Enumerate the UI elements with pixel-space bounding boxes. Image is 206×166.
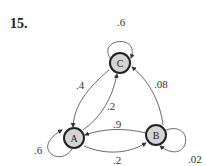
label-a-c: .2 (107, 100, 115, 112)
label-c-a: .4 (76, 79, 85, 91)
svg-text:B: B (153, 130, 160, 141)
edge-a-b (84, 143, 146, 152)
label-b-c: .08 (154, 78, 168, 90)
svg-text:A: A (70, 133, 78, 144)
node-b: B (146, 125, 166, 145)
node-c: C (110, 53, 130, 73)
state-diagram: C A B .6 .4 .2 .08 .9 .2 .6 .02 (0, 0, 206, 166)
label-b-a: .9 (113, 118, 122, 130)
edge-b-a (85, 129, 146, 135)
node-a: A (64, 128, 84, 148)
edge-b-c (132, 67, 163, 125)
label-b-b: .02 (188, 153, 202, 165)
svg-text:C: C (117, 58, 124, 69)
label-a-b: .2 (113, 154, 121, 166)
label-a-a: .6 (34, 144, 43, 156)
label-c-c: .6 (117, 16, 126, 28)
